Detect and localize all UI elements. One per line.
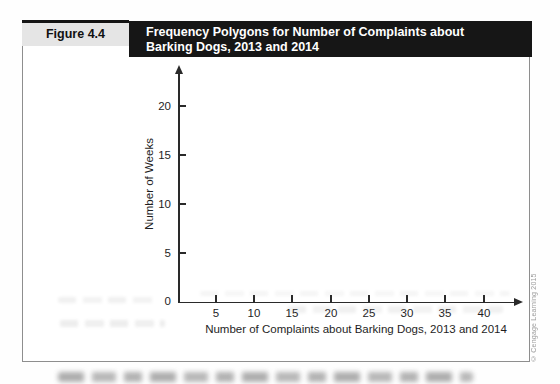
figure-number-text: Figure 4.4 bbox=[46, 27, 105, 41]
x-tick-label: 5 bbox=[201, 306, 231, 321]
figure-title-line2: Barking Dogs, 2013 and 2014 bbox=[146, 40, 524, 55]
y-tick-mark bbox=[179, 203, 186, 205]
bleed-through-artifact bbox=[200, 291, 510, 296]
x-tick-mark bbox=[253, 295, 255, 302]
scanned-textbook-page: Figure 4.4 Frequency Polygons for Number… bbox=[0, 0, 560, 384]
y-tick-mark bbox=[179, 154, 186, 156]
x-tick-mark bbox=[368, 295, 370, 302]
x-tick-mark bbox=[291, 295, 293, 302]
x-tick-mark bbox=[330, 295, 332, 302]
x-axis-arrow-icon bbox=[514, 298, 523, 306]
bleed-through-artifact bbox=[60, 320, 165, 327]
y-tick-label: 20 bbox=[127, 98, 171, 114]
x-axis-title: Number of Complaints about Barking Dogs,… bbox=[183, 322, 529, 336]
y-tick-mark bbox=[179, 252, 186, 254]
y-axis-arrow-icon bbox=[175, 65, 183, 74]
x-tick-mark bbox=[444, 295, 446, 302]
y-tick-label: 5 bbox=[127, 245, 171, 261]
y-axis-title: Number of Weeks bbox=[141, 124, 157, 244]
y-tick-mark bbox=[179, 105, 186, 107]
x-tick-mark bbox=[483, 295, 485, 302]
bleed-through-artifact bbox=[288, 306, 503, 313]
figure-title-line1: Frequency Polygons for Number of Complai… bbox=[146, 25, 524, 40]
y-axis-line bbox=[178, 73, 180, 302]
x-tick-mark bbox=[215, 295, 217, 302]
copyright-credit: © Cengage Learning 2015 bbox=[530, 277, 543, 362]
figure-number-label: Figure 4.4 bbox=[22, 20, 129, 46]
x-axis-line bbox=[178, 302, 516, 304]
x-tick-mark bbox=[406, 295, 408, 302]
bleed-through-artifact bbox=[58, 297, 158, 303]
blurred-caption-text bbox=[58, 372, 473, 382]
figure-title-bar: Frequency Polygons for Number of Complai… bbox=[129, 21, 532, 57]
x-tick-label: 10 bbox=[239, 306, 269, 321]
